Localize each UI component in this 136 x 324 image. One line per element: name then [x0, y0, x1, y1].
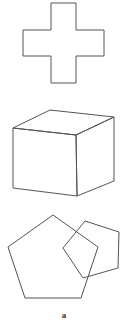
cube-front-face: [13, 128, 77, 196]
large-pentagon-shape: [8, 215, 98, 298]
panel-label: a: [0, 309, 128, 321]
cross-shape: [23, 3, 104, 83]
geometric-shapes-figure: [0, 0, 136, 324]
cube-top-face: [13, 110, 114, 135]
cube-shape: [13, 110, 114, 196]
cube-side-face: [76, 117, 114, 196]
